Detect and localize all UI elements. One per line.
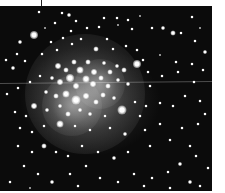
star	[102, 61, 106, 65]
star	[169, 139, 172, 142]
star	[14, 111, 17, 114]
star	[67, 155, 70, 158]
star	[161, 75, 164, 78]
star	[81, 145, 84, 148]
star	[44, 90, 48, 94]
star	[45, 108, 49, 112]
star	[139, 115, 142, 118]
star	[83, 76, 90, 83]
star	[11, 66, 15, 70]
star	[50, 76, 54, 80]
star	[69, 173, 72, 176]
star	[193, 81, 196, 84]
star	[159, 54, 161, 56]
star	[118, 106, 127, 115]
star	[108, 70, 113, 75]
star	[17, 145, 20, 148]
star	[106, 84, 111, 89]
star	[64, 68, 69, 73]
star	[99, 76, 104, 81]
star	[18, 40, 22, 44]
star	[63, 91, 70, 98]
star	[67, 13, 71, 17]
star	[55, 151, 58, 154]
star	[94, 100, 99, 105]
star	[19, 127, 22, 130]
star	[72, 60, 77, 65]
star	[189, 145, 192, 148]
star	[106, 38, 109, 41]
star	[207, 167, 210, 170]
star	[78, 108, 82, 112]
star	[75, 20, 78, 23]
star	[116, 78, 120, 82]
star	[77, 185, 80, 188]
star	[71, 43, 74, 46]
star	[29, 81, 32, 84]
star	[149, 85, 152, 88]
star	[151, 27, 154, 30]
star	[50, 180, 54, 184]
star	[144, 129, 147, 132]
star	[23, 165, 26, 168]
star	[133, 60, 141, 68]
star	[77, 67, 84, 74]
star	[9, 181, 12, 184]
star	[123, 132, 127, 136]
star	[145, 105, 148, 108]
star	[57, 121, 64, 128]
star	[199, 185, 202, 188]
star	[184, 95, 187, 98]
star	[70, 30, 73, 33]
star	[56, 49, 59, 52]
star	[42, 144, 47, 149]
star	[204, 113, 207, 116]
star	[133, 173, 136, 176]
star	[94, 47, 99, 52]
star	[199, 27, 201, 29]
star	[101, 93, 106, 98]
star	[202, 69, 205, 72]
star	[55, 63, 61, 69]
star	[38, 11, 41, 14]
star	[66, 112, 71, 117]
star	[125, 45, 128, 48]
star	[80, 38, 83, 41]
star	[88, 112, 92, 116]
star	[90, 81, 96, 87]
star	[169, 187, 172, 190]
star	[191, 16, 194, 19]
star	[117, 181, 120, 184]
star	[86, 27, 89, 30]
star	[39, 75, 42, 78]
star	[61, 12, 64, 15]
star	[62, 37, 65, 40]
star	[29, 187, 31, 189]
star	[194, 40, 197, 43]
star	[122, 68, 127, 73]
star	[98, 26, 101, 29]
star	[24, 60, 27, 63]
star	[178, 162, 182, 166]
star	[131, 28, 134, 31]
star	[66, 74, 74, 82]
star	[177, 71, 180, 74]
star	[109, 127, 112, 130]
star	[43, 125, 46, 128]
star	[159, 123, 162, 126]
star	[188, 180, 192, 184]
star	[54, 22, 57, 25]
star	[143, 185, 146, 188]
star	[161, 26, 165, 30]
star	[17, 87, 20, 90]
star	[44, 27, 46, 29]
star	[25, 115, 28, 118]
star	[203, 50, 207, 54]
star	[31, 151, 34, 154]
star	[197, 123, 200, 126]
star	[147, 71, 150, 74]
star	[16, 53, 19, 56]
star	[172, 105, 175, 108]
star	[74, 125, 77, 128]
star	[97, 151, 100, 154]
